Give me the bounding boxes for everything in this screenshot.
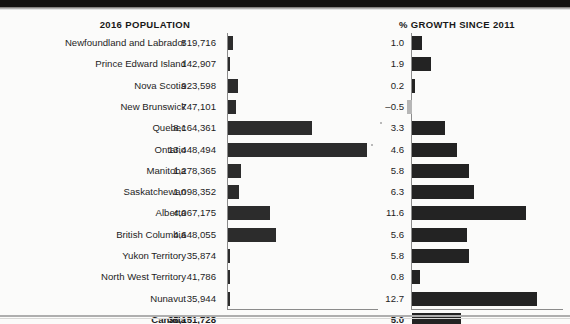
table-row: Prince Edward Island142,9071.9 — [0, 54, 570, 75]
population-panel-title: 2016 POPULATION — [60, 19, 230, 30]
population-bar — [228, 292, 230, 306]
growth-value: 1.0 — [348, 37, 404, 48]
population-value: 35,944 — [126, 293, 216, 304]
growth-value: 5.8 — [348, 165, 404, 176]
population-value: 41,786 — [126, 271, 216, 282]
table-row: Yukon Territory35,8745.8 — [0, 246, 570, 267]
growth-bar — [412, 164, 469, 178]
growth-value: 1.9 — [348, 58, 404, 69]
population-value: 4,648,055 — [126, 229, 216, 240]
population-value: 747,101 — [126, 101, 216, 112]
population-bar — [228, 79, 238, 93]
population-value: 4,067,175 — [126, 207, 216, 218]
population-bar — [228, 228, 276, 242]
population-value: 35,874 — [126, 250, 216, 261]
growth-value: –0.5 — [348, 101, 404, 112]
population-bar — [228, 36, 233, 50]
growth-value: 4.6 — [348, 144, 404, 155]
table-row: Quebec8,164,3613.3 — [0, 118, 570, 139]
growth-value: 5.6 — [348, 229, 404, 240]
growth-bar — [412, 185, 474, 199]
population-bar — [228, 143, 367, 157]
population-bar — [228, 206, 270, 220]
page-bottom-rule — [0, 315, 570, 317]
scan-edge-fade — [0, 7, 570, 10]
population-value: 142,907 — [126, 58, 216, 69]
population-bar — [228, 121, 312, 135]
population-value: 923,598 — [126, 80, 216, 91]
growth-bar — [412, 249, 469, 263]
growth-bar — [412, 121, 445, 135]
table-row: Ontario13,448,4944.6 — [0, 140, 570, 161]
growth-bar-negative — [407, 100, 412, 114]
population-value: 1,098,352 — [126, 186, 216, 197]
growth-value: 11.6 — [348, 207, 404, 218]
growth-bar — [412, 79, 415, 93]
growth-bar — [412, 292, 537, 306]
infographic-page: 2016 POPULATION % GROWTH SINCE 2011 Newf… — [0, 0, 570, 324]
population-value: 8,164,361 — [126, 122, 216, 133]
growth-value: 0.8 — [348, 271, 404, 282]
growth-value: 6.3 — [348, 186, 404, 197]
growth-bar — [412, 228, 467, 242]
population-bar — [228, 185, 239, 199]
table-row: Alberta4,067,17511.6 — [0, 203, 570, 224]
growth-bar — [412, 206, 526, 220]
population-bar — [228, 249, 230, 263]
population-bar — [228, 270, 230, 284]
population-bar — [228, 57, 230, 71]
table-row: British Columbia4,648,0555.6 — [0, 225, 570, 246]
growth-bar — [412, 143, 457, 157]
page-bottom-rule-shadow — [0, 318, 570, 319]
table-row: Newfoundland and Labrador519,7161.0 — [0, 33, 570, 54]
growth-value: 0.2 — [348, 80, 404, 91]
table-row: North West Territory41,7860.8 — [0, 267, 570, 288]
population-value: 13,448,494 — [126, 144, 216, 155]
population-bar — [228, 100, 236, 114]
table-row: Saskatchewan1,098,3526.3 — [0, 182, 570, 203]
growth-bar — [412, 36, 422, 50]
growth-value: 12.7 — [348, 293, 404, 304]
population-value: 1,278,365 — [126, 165, 216, 176]
growth-panel-title: % GROWTH SINCE 2011 — [372, 19, 542, 30]
growth-value: 5.8 — [348, 250, 404, 261]
table-row: Nunavut35,94412.7 — [0, 289, 570, 310]
table-row: Nova Scotia923,5980.2 — [0, 76, 570, 97]
scan-edge-band — [0, 0, 570, 7]
population-bar — [228, 164, 241, 178]
growth-value: 3.3 — [348, 122, 404, 133]
growth-bar — [412, 57, 431, 71]
growth-bar — [412, 270, 420, 284]
table-row: Manitoba1,278,3655.8 — [0, 161, 570, 182]
population-value: 519,716 — [126, 37, 216, 48]
table-row: New Brunswick747,101–0.5 — [0, 97, 570, 118]
